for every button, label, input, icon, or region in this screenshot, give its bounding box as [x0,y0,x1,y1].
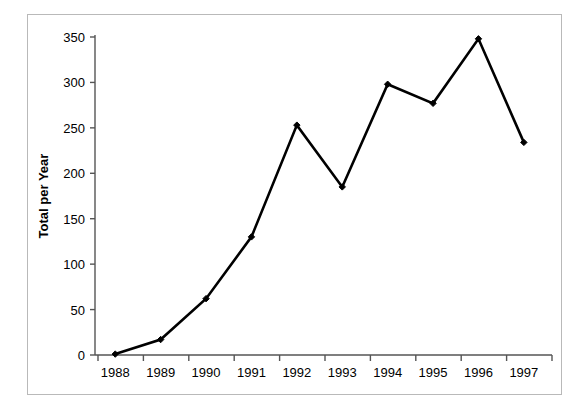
y-tick-label: 0 [78,348,85,363]
y-tick-label: 200 [63,166,85,181]
y-tick-label: 150 [63,212,85,227]
x-tick-label: 1992 [282,365,311,380]
y-tick-label: 50 [71,303,85,318]
y-tick-label: 300 [63,75,85,90]
x-tick-label: 1993 [328,365,357,380]
x-tick-label: 1991 [237,365,266,380]
x-tick-label: 1990 [192,365,221,380]
y-tick-label: 250 [63,121,85,136]
chart-figure: 050100150200250300350 198819891990199119… [0,0,588,408]
x-tick-label: 1995 [419,365,448,380]
y-axis-title: Total per Year [36,154,51,239]
y-axis: 050100150200250300350 [63,30,95,363]
x-tick-label: 1997 [509,365,538,380]
data-point-marker [112,351,118,357]
x-tick-label: 1989 [146,365,175,380]
x-tick-label: 1994 [373,365,402,380]
line-chart-canvas: 050100150200250300350 198819891990199119… [0,0,588,408]
series-polyline [115,39,524,354]
x-tick-label: 1996 [464,365,493,380]
y-tick-label: 100 [63,257,85,272]
data-series-total-per-year [112,36,527,358]
x-tick-label: 1988 [101,365,130,380]
x-axis: 1988198919901991199219931994199519961997 [95,355,552,380]
y-axis-title-text: Total per Year [36,154,51,239]
y-tick-label: 350 [63,30,85,45]
